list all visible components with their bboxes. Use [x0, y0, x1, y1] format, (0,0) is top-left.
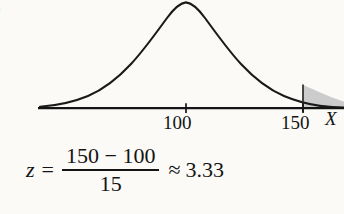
normal-distribution-curve [0, 0, 344, 130]
bell-curve-path [40, 2, 344, 107]
x-tick-label-100: 100 [163, 113, 192, 132]
z-score-equation: z = 150 − 100 15 ≈ 3.33 [26, 144, 224, 196]
figure-page: ) 100 150 X z = 150 − 100 15 ≈ 3.33 [0, 0, 344, 214]
equation-equals-sign: = [42, 159, 62, 181]
x-tick-label-150: 150 [281, 113, 310, 132]
equation-variable-z: z [26, 159, 42, 181]
equation-result-value: 3.33 [185, 159, 224, 181]
equation-approx-sign: ≈ [159, 159, 185, 181]
equation-fraction: 150 − 100 15 [62, 144, 159, 196]
fraction-numerator: 150 − 100 [62, 144, 159, 169]
x-axis-name-label: X [325, 109, 337, 128]
fraction-denominator: 15 [96, 171, 126, 196]
